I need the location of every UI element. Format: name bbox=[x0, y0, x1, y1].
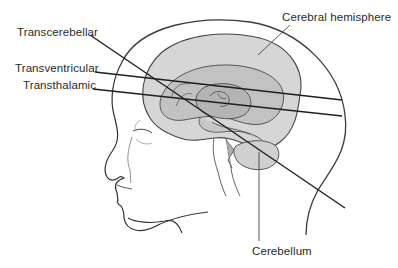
cerebral-hemisphere-label: Cerebral hemisphere bbox=[282, 11, 391, 24]
transcerebellar-label: Transcerebellar bbox=[17, 26, 98, 39]
cerebellum-icon bbox=[234, 141, 279, 170]
eye-icon bbox=[133, 129, 152, 133]
cerebellum-label: Cerebellum bbox=[252, 245, 312, 258]
cheek-line-icon bbox=[128, 137, 132, 183]
transventricular-label: Transventricular bbox=[15, 62, 99, 75]
diagram-canvas: Transcerebellar Transventricular Transth… bbox=[0, 0, 398, 268]
eyelid-icon bbox=[135, 120, 152, 144]
fourth-ventricle-icon bbox=[226, 140, 234, 168]
transthalamic-label: Transthalamic bbox=[23, 79, 96, 92]
mouth-icon bbox=[117, 185, 132, 189]
ear-icon bbox=[160, 212, 208, 224]
head-brain-illustration bbox=[0, 0, 398, 268]
